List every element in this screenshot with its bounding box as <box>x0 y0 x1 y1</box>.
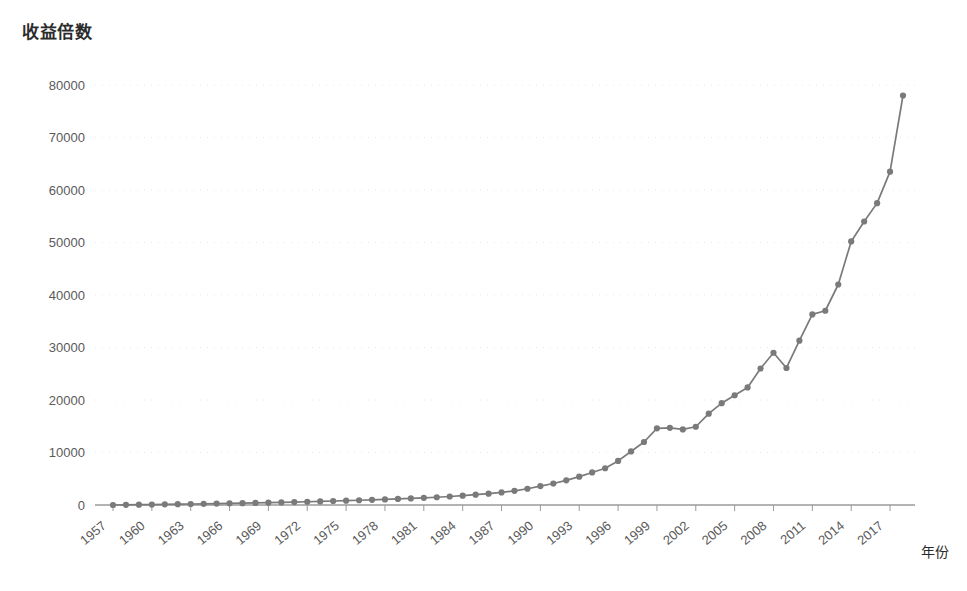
x-axis-tick-label: 1990 <box>505 518 537 548</box>
data-point-marker <box>149 501 155 507</box>
data-point-marker <box>447 493 453 499</box>
data-point-marker <box>188 501 194 507</box>
chart-page: 收益倍数 01000020000300004000050000600007000… <box>0 0 967 591</box>
data-point-marker <box>498 489 504 495</box>
data-point-marker <box>602 465 608 471</box>
data-point-marker <box>356 497 362 503</box>
data-point-marker <box>796 338 802 344</box>
data-point-marker <box>693 424 699 430</box>
data-point-marker <box>667 425 673 431</box>
x-axis-tick-label: 1975 <box>310 518 342 548</box>
data-point-marker <box>589 469 595 475</box>
x-axis-tick-label: 1993 <box>543 518 575 548</box>
data-point-marker <box>783 365 789 371</box>
x-axis-tick-label: 1972 <box>271 518 303 548</box>
data-point-marker <box>382 496 388 502</box>
y-axis-tick-label: 30000 <box>49 340 85 355</box>
data-point-marker <box>706 411 712 417</box>
data-point-marker <box>628 448 634 454</box>
data-point-marker <box>434 494 440 500</box>
data-point-marker <box>485 491 491 497</box>
data-point-marker <box>732 392 738 398</box>
data-point-marker <box>330 498 336 504</box>
x-axis-title: 年份 <box>921 541 949 561</box>
x-axis-tick-label: 1981 <box>388 518 420 548</box>
data-point-marker <box>369 497 375 503</box>
x-axis-tick-label: 1960 <box>116 518 148 548</box>
x-axis-tick-label: 2008 <box>738 518 770 548</box>
data-point-marker <box>162 501 168 507</box>
data-point-marker <box>252 500 258 506</box>
y-axis-tick-label: 50000 <box>49 235 85 250</box>
data-point-marker <box>563 477 569 483</box>
data-point-marker <box>136 502 142 508</box>
data-point-marker <box>460 493 466 499</box>
x-axis-tick-labels: 1957196019631966196919721975197819811984… <box>77 518 886 548</box>
data-point-marker <box>835 281 841 287</box>
data-point-marker <box>110 502 116 508</box>
data-point-marker <box>615 458 621 464</box>
x-axis-tick-label: 1969 <box>233 518 265 548</box>
data-point-marker <box>861 218 867 224</box>
data-point-marker <box>770 350 776 356</box>
data-point-marker <box>887 169 893 175</box>
data-point-marker <box>809 311 815 317</box>
data-point-marker <box>343 498 349 504</box>
data-point-marker <box>757 365 763 371</box>
series-line <box>113 96 903 505</box>
data-point-marker <box>641 439 647 445</box>
data-point-marker <box>537 483 543 489</box>
x-axis-tick-label: 1999 <box>621 518 653 548</box>
x-axis-tick-label: 1963 <box>155 518 187 548</box>
data-point-marker <box>848 238 854 244</box>
data-point-marker <box>395 496 401 502</box>
x-axis-tick-label: 1978 <box>349 518 381 548</box>
data-series-line <box>113 96 903 505</box>
data-point-marker <box>265 500 271 506</box>
y-axis-tick-label: 40000 <box>49 288 85 303</box>
data-point-marker <box>473 492 479 498</box>
data-point-marker <box>278 499 284 505</box>
data-point-marker <box>201 501 207 507</box>
y-axis-tick-label: 20000 <box>49 393 85 408</box>
data-point-marker <box>680 426 686 432</box>
x-axis-tick-label: 2017 <box>854 518 886 548</box>
x-axis-tick-label: 1996 <box>582 518 614 548</box>
data-point-marker <box>822 308 828 314</box>
data-point-marker <box>291 499 297 505</box>
data-point-marker <box>175 501 181 507</box>
y-axis-tick-label: 10000 <box>49 445 85 460</box>
data-point-marker <box>550 480 556 486</box>
y-axis-tick-label: 0 <box>78 498 85 513</box>
line-chart-plot: 0100002000030000400005000060000700008000… <box>0 0 967 591</box>
data-point-marker <box>317 498 323 504</box>
data-point-marker <box>408 495 414 501</box>
data-point-marker <box>576 474 582 480</box>
data-series-markers <box>110 92 906 508</box>
data-point-marker <box>874 200 880 206</box>
data-point-marker <box>239 500 245 506</box>
data-point-marker <box>524 486 530 492</box>
y-axis-tick-label: 60000 <box>49 183 85 198</box>
y-axis-tick-label: 70000 <box>49 130 85 145</box>
data-point-marker <box>654 425 660 431</box>
x-axis-tick-label: 2002 <box>660 518 692 548</box>
y-axis-tick-labels: 0100002000030000400005000060000700008000… <box>49 78 85 513</box>
data-point-marker <box>226 500 232 506</box>
x-axis-tick-label: 1966 <box>194 518 226 548</box>
data-point-marker <box>421 495 427 501</box>
x-axis-tick-label: 1957 <box>77 518 109 548</box>
data-point-marker <box>511 488 517 494</box>
data-point-marker <box>304 499 310 505</box>
x-axis-tick-label: 2014 <box>815 518 847 548</box>
y-axis-tick-label: 80000 <box>49 78 85 93</box>
gridlines-group <box>95 85 915 453</box>
data-point-marker <box>719 400 725 406</box>
data-point-marker <box>744 384 750 390</box>
x-axis-tick-label: 2011 <box>777 518 808 547</box>
data-point-marker <box>900 92 906 98</box>
x-axis-tick-label: 1984 <box>427 518 459 548</box>
data-point-marker <box>214 500 220 506</box>
x-axis-tick-label: 2005 <box>699 518 731 548</box>
x-axis-tick-label: 1987 <box>466 518 498 548</box>
